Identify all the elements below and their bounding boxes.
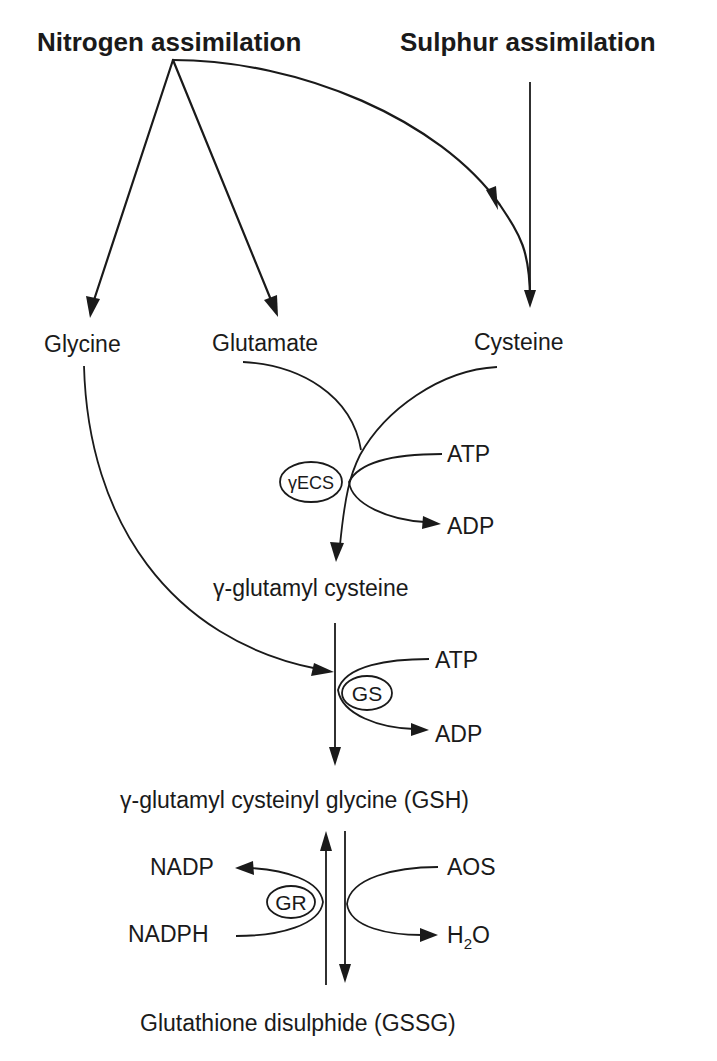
gamma-glutamyl-cysteine-label: γ-glutamyl cysteine [213, 575, 409, 601]
arrow-nitrogen-to-glycine [86, 60, 173, 318]
arrow-sulphur-to-cysteine [524, 82, 536, 308]
arrow-nitrogen-to-glutamate [173, 60, 278, 317]
enzyme-gs: GS [342, 676, 392, 710]
adp-label-1: ADP [447, 513, 494, 539]
sulphur-assimilation-label: Sulphur assimilation [400, 27, 656, 57]
arrow-nitrogen-to-cysteine [173, 60, 530, 300]
adp-label-2: ADP [435, 721, 482, 747]
nadp-label: NADP [150, 854, 214, 880]
enzyme-gr: GR [267, 886, 315, 918]
gsh-label: γ-glutamyl cysteinyl glycine (GSH) [120, 787, 469, 813]
gssg-label: Glutathione disulphide (GSSG) [140, 1010, 456, 1036]
glutamate-label: Glutamate [212, 330, 318, 356]
h2o-label: H2O [447, 922, 490, 952]
glycine-label: Glycine [44, 331, 121, 357]
arrow-gsh-to-gssg [339, 831, 351, 983]
gs-label: GS [352, 682, 382, 705]
nitrogen-assimilation-label: Nitrogen assimilation [37, 27, 301, 57]
cysteine-label: Cysteine [474, 329, 563, 355]
glutathione-pathway-diagram: Nitrogen assimilation Sulphur assimilati… [0, 0, 717, 1061]
gamma-ecs-label: γECS [288, 473, 334, 493]
nadph-label: NADPH [128, 921, 209, 947]
enzyme-gamma-ecs: γECS [280, 462, 342, 502]
atp-adp-loop-1 [349, 454, 442, 529]
aos-label: AOS [447, 854, 496, 880]
arrow-glycine-to-gs [84, 366, 334, 676]
glutamate-flow [243, 362, 361, 450]
gr-label: GR [275, 891, 307, 914]
atp-label-2: ATP [435, 647, 478, 673]
aos-h2o-loop [347, 867, 438, 942]
atp-label-1: ATP [447, 441, 490, 467]
